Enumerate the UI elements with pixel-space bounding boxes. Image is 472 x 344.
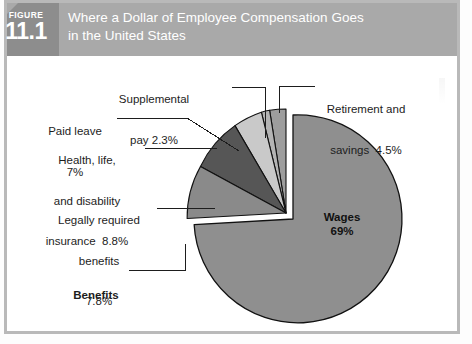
label-health-line-1: Health, life, <box>31 154 143 168</box>
label-benefits-group: Benefits 30.3% <box>65 262 127 331</box>
label-wages-line-2: 69% <box>307 225 377 239</box>
label-retirement-line-2: savings 4.5% <box>302 144 430 158</box>
label-retirement-savings: Retirement and savings 4.5% <box>302 76 430 184</box>
figure-title-line-2: in the United States <box>68 27 448 45</box>
label-wages-line-1: Wages <box>307 211 377 225</box>
figure-title: Where a Dollar of Employee Compensation … <box>68 9 448 44</box>
label-legally-line-1: Legally required <box>43 214 155 228</box>
label-benefits-line-2: 30.3% <box>65 330 127 332</box>
figure-title-line-1: Where a Dollar of Employee Compensation … <box>68 10 364 25</box>
figure-badge-number: 11.1 <box>0 20 52 43</box>
figure-root: FIGURE 11.1 Where a Dollar of Employee C… <box>0 0 472 344</box>
scan-artifact <box>439 78 445 104</box>
label-wages: Wages 69% <box>307 211 377 238</box>
label-retirement-line-1: Retirement and <box>302 103 430 117</box>
label-benefits-line-1: Benefits <box>65 289 127 303</box>
pie-chart-area: Supplemental pay 2.3% Paid leave 7% Heal… <box>7 56 457 331</box>
